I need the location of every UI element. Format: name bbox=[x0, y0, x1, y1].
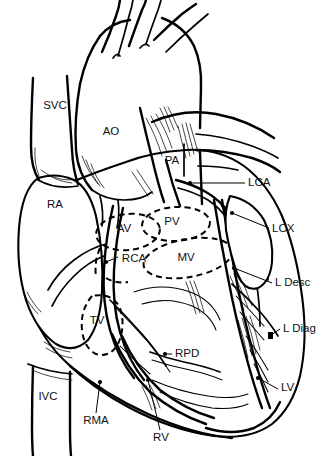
label-rca: RCA bbox=[122, 252, 147, 264]
rca-leader-dot bbox=[104, 260, 108, 264]
label-lca: LCA bbox=[248, 176, 271, 188]
label-ra: RA bbox=[47, 198, 63, 210]
label-ao: AO bbox=[103, 125, 120, 137]
label-ivc: IVC bbox=[38, 390, 57, 402]
l-diag-leader-dot bbox=[268, 332, 273, 339]
rpd-leader-dot bbox=[163, 352, 167, 356]
label-rma: RMA bbox=[83, 414, 109, 426]
label-svc: SVC bbox=[43, 99, 67, 111]
label-pv: PV bbox=[164, 215, 180, 227]
label-lv: LV bbox=[281, 381, 295, 393]
label-rv: RV bbox=[153, 431, 169, 443]
heart-diagram-canvas: SVC AO RA PA LCA LCX AV PV RCA MV L Desc… bbox=[0, 0, 326, 456]
ivc-right-wall bbox=[70, 372, 71, 456]
rma-leader-dot bbox=[98, 380, 102, 384]
rv-leader-dot bbox=[146, 378, 150, 382]
label-lcx: LCX bbox=[272, 222, 295, 234]
lcx-leader-dot bbox=[230, 211, 234, 215]
heart-anatomy-diagram: SVC AO RA PA LCA LCX AV PV RCA MV L Desc… bbox=[0, 0, 326, 456]
label-av: AV bbox=[117, 222, 132, 234]
label-rpd: RPD bbox=[175, 347, 199, 359]
l-desc-leader-dot bbox=[232, 266, 236, 270]
label-mv: MV bbox=[177, 251, 195, 263]
lca-leader-dot bbox=[188, 181, 192, 185]
label-tv: TV bbox=[90, 314, 105, 326]
lv-leader-dot bbox=[256, 376, 260, 380]
label-l-desc: L Desc bbox=[275, 276, 311, 288]
ivc-left-wall bbox=[32, 366, 33, 456]
label-pa: PA bbox=[165, 154, 180, 166]
label-l-diag: L Diag bbox=[283, 322, 316, 334]
